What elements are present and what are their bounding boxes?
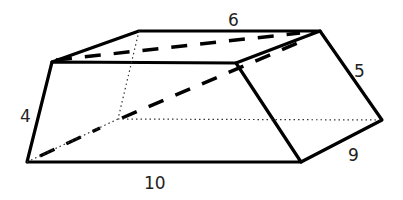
label-left-edge: 4 [20,106,31,126]
label-bottom-right-edge: 9 [348,145,359,165]
front-face [27,62,301,162]
label-top-edge: 6 [228,10,239,30]
right-face [301,31,382,162]
lower-diagonal [40,128,100,156]
solid-diagram: 6 5 4 9 10 [0,0,403,200]
hidden-bottom-edge [118,119,382,120]
visible-edges [27,31,382,162]
interior-diagonal [122,42,300,118]
hidden-vertical-edge [118,31,139,119]
label-bottom-edge: 10 [144,173,166,193]
label-right-slant-edge: 5 [354,61,365,81]
